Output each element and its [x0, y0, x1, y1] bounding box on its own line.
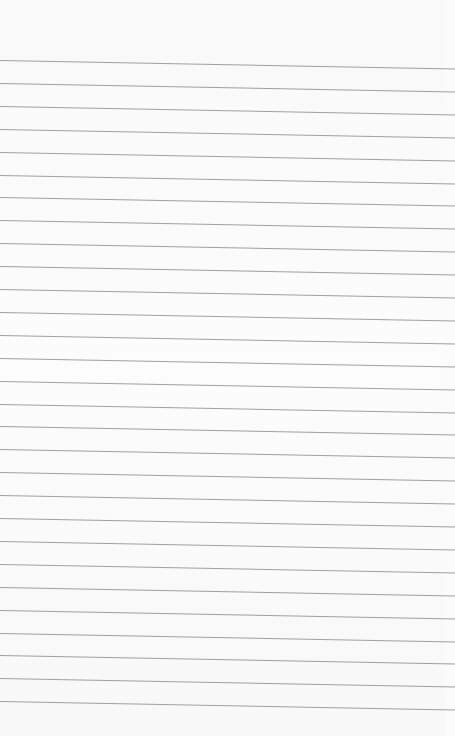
ruled-line [0, 152, 455, 161]
ruled-line [0, 541, 455, 550]
ruled-line [0, 243, 455, 252]
ruled-line [0, 266, 455, 275]
ruled-line [0, 106, 455, 115]
ruled-line [0, 175, 455, 184]
ruled-line [0, 381, 455, 390]
ruled-line [0, 312, 455, 321]
ruled-line [0, 60, 455, 69]
ruled-line [0, 610, 455, 619]
ruled-line [0, 335, 455, 344]
ruled-line [0, 564, 455, 573]
ruled-line [0, 655, 455, 664]
ruled-line [0, 129, 455, 138]
ruled-line [0, 220, 455, 229]
ruled-line [0, 587, 455, 596]
ruled-line [0, 495, 455, 504]
ruled-line [0, 701, 455, 710]
ruled-line [0, 404, 455, 413]
ruled-line [0, 518, 455, 527]
ruled-line [0, 449, 455, 458]
ruled-line [0, 289, 455, 298]
ruled-line [0, 358, 455, 367]
ruled-line [0, 83, 455, 92]
ruled-line [0, 426, 455, 435]
ruled-line [0, 633, 455, 642]
ruled-line [0, 472, 455, 481]
ruled-line [0, 197, 455, 206]
ruled-line [0, 678, 455, 687]
